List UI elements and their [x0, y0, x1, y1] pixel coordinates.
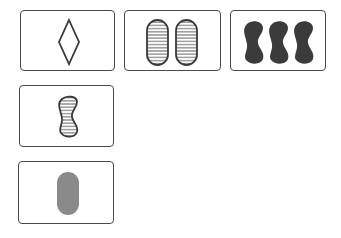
card-one-open-diamond[interactable] — [20, 10, 115, 71]
squiggle-icon — [269, 21, 288, 63]
card-one-solid-oval[interactable] — [18, 161, 114, 224]
diamond-icon — [59, 20, 79, 64]
squiggle-icon — [294, 21, 313, 63]
oval-icon — [57, 172, 79, 215]
squiggle-icon — [59, 97, 77, 137]
card-one-striped-squiggle[interactable] — [19, 85, 114, 147]
squiggle-icon — [244, 21, 263, 63]
oval-icon — [147, 20, 168, 65]
oval-icon — [176, 20, 197, 65]
card-three-solid-squiggles[interactable] — [230, 10, 326, 71]
card-two-striped-ovals[interactable] — [124, 10, 221, 71]
